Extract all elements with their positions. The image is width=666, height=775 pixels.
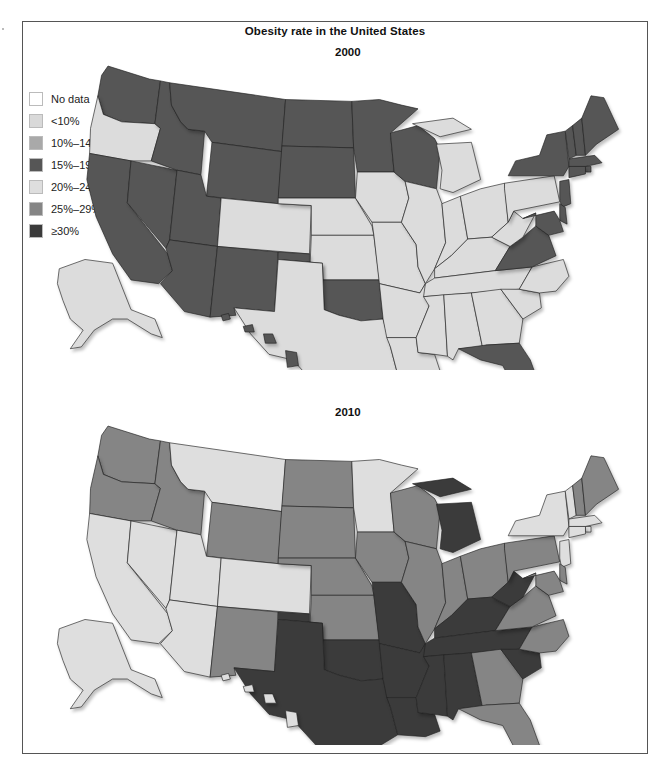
state-ct-2000 bbox=[569, 166, 586, 177]
state-me-2010 bbox=[582, 456, 619, 516]
state-me-2000 bbox=[582, 96, 619, 156]
us-map-2000 bbox=[23, 40, 649, 370]
state-nj-2000 bbox=[560, 180, 571, 208]
state-wy-2010 bbox=[206, 502, 281, 563]
state-ny-2010 bbox=[508, 491, 569, 536]
state-ny-2000 bbox=[508, 131, 569, 176]
state-sd-2000 bbox=[278, 146, 355, 198]
state-nd-2010 bbox=[282, 460, 354, 508]
state-az-2000 bbox=[160, 240, 217, 317]
state-nm-2010 bbox=[210, 606, 278, 677]
state-ct-2010 bbox=[569, 526, 586, 537]
state-wy-2000 bbox=[206, 142, 281, 203]
figure-title: Obesity rate in the United States bbox=[23, 25, 647, 37]
state-fl-2000 bbox=[459, 343, 544, 370]
state-wa-2010 bbox=[98, 426, 161, 484]
scan-artifact bbox=[2, 28, 4, 30]
state-de-2000 bbox=[560, 204, 567, 224]
us-map-2010 bbox=[23, 400, 649, 745]
state-de-2010 bbox=[560, 564, 567, 584]
state-co-2010 bbox=[217, 558, 311, 614]
figure-frame: Obesity rate in the United States 2000 2… bbox=[22, 21, 648, 754]
state-ma-2010 bbox=[569, 515, 602, 526]
state-ma-2000 bbox=[569, 155, 602, 166]
state-sd-2010 bbox=[278, 506, 355, 558]
state-nm-2000 bbox=[210, 246, 278, 317]
state-nj-2010 bbox=[560, 540, 571, 568]
state-az-2010 bbox=[160, 600, 217, 677]
state-wa-2000 bbox=[98, 66, 161, 124]
state-nd-2000 bbox=[282, 100, 354, 148]
state-ri-2010 bbox=[585, 526, 591, 532]
state-fl-2010 bbox=[459, 703, 544, 745]
state-ri-2000 bbox=[585, 166, 591, 172]
state-co-2000 bbox=[217, 198, 311, 254]
